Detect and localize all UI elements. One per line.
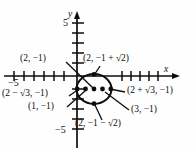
x-axis-arrowhead	[172, 73, 180, 79]
point-top-covertex	[92, 72, 97, 77]
label-right-vertex: (2 + √3, −1)	[127, 86, 173, 96]
label-top-covertex: (2, −1 + √2)	[83, 54, 129, 64]
y-axis-label: y	[68, 9, 72, 19]
point-left-vertex	[75, 87, 80, 92]
y-tick-label-neg5: −5	[55, 124, 66, 135]
point-right-vertex	[108, 87, 113, 92]
y-tick-label-5: 5	[63, 17, 68, 28]
label-left-vertex: (2 − √3, −1)	[2, 89, 48, 99]
point-right-focus	[100, 87, 105, 92]
ellipse-graph-figure: y x −5 5 −5 (2, −1) (2, −1 + √2) (2 − √3…	[0, 0, 195, 153]
point-bottom-covertex	[92, 101, 97, 106]
label-left-focus: (1, −1)	[28, 102, 54, 112]
label-right-focus: (3, −1)	[131, 105, 157, 115]
graph-canvas	[0, 0, 195, 153]
label-center: (2, −1)	[20, 54, 46, 64]
label-bottom-covertex: (2, −1 − √2)	[75, 119, 121, 129]
leader-lines	[66, 62, 129, 120]
point-center	[92, 87, 97, 92]
point-left-focus	[83, 87, 88, 92]
x-axis-label: x	[164, 64, 168, 74]
x-tick-label-neg5: −5	[8, 77, 19, 88]
y-axis-arrowhead	[74, 11, 80, 19]
